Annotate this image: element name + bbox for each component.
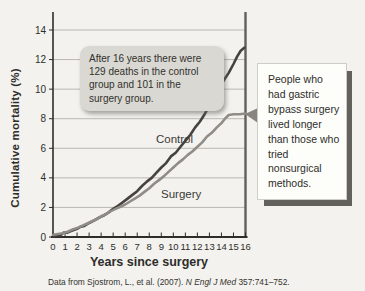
y-tick-label-10: 10 xyxy=(35,84,47,95)
annotation-box: After 16 years there were 129 deaths in … xyxy=(80,46,224,111)
x-tick-label-12: 12 xyxy=(192,241,203,252)
x-tick-label-13: 13 xyxy=(204,241,215,252)
x-tick-label-14: 14 xyxy=(216,241,227,252)
control-series-label: Control xyxy=(156,133,193,145)
source-prefix: Data from Sjostrom, L., et al. (2007). xyxy=(48,277,186,287)
x-tick-label-8: 8 xyxy=(147,241,152,252)
x-tick-label-10: 10 xyxy=(168,241,179,252)
x-tick-label-2: 2 xyxy=(74,241,79,252)
x-tick-label-7: 7 xyxy=(135,241,140,252)
x-tick-label-1: 1 xyxy=(62,241,67,252)
x-tick-label-0: 0 xyxy=(50,241,55,252)
surgery-series-label: Surgery xyxy=(161,188,201,200)
x-tick-label-9: 9 xyxy=(159,241,164,252)
y-tick-label-4: 4 xyxy=(40,172,46,183)
x-tick-label-5: 5 xyxy=(111,241,116,252)
y-tick-label-2: 2 xyxy=(40,202,46,213)
x-tick-label-15: 15 xyxy=(228,241,239,252)
x-tick-label-3: 3 xyxy=(86,241,91,252)
source-suffix: 357:741–752. xyxy=(236,277,290,287)
callout-speech-bubble: People who had gastric bypass surgery li… xyxy=(257,63,347,200)
y-tick-label-0: 0 xyxy=(40,232,46,243)
x-tick-label-6: 6 xyxy=(123,241,128,252)
source-journal: N Engl J Med xyxy=(186,277,236,287)
y-tick-label-6: 6 xyxy=(40,143,46,154)
y-tick-label-8: 8 xyxy=(40,113,46,124)
x-axis-title: Years since surgery xyxy=(90,255,208,269)
y-axis-title: Cumulative mortality (%) xyxy=(9,68,21,208)
y-tick-label-12: 12 xyxy=(35,54,47,65)
x-tick-label-4: 4 xyxy=(98,241,103,252)
x-tick-label-16: 16 xyxy=(240,241,251,252)
series-line-surgery xyxy=(53,114,246,235)
figure-cumulative-mortality: 01234567891011121314151602468101214 Cumu… xyxy=(0,0,365,291)
x-tick-label-11: 11 xyxy=(180,241,190,252)
y-tick-label-14: 14 xyxy=(35,25,47,36)
source-citation: Data from Sjostrom, L., et al. (2007). N… xyxy=(48,277,290,287)
